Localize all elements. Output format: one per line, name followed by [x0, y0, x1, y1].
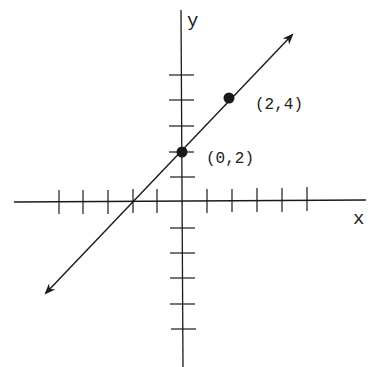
y-axis	[181, 10, 183, 367]
x-axis	[14, 200, 366, 202]
point-label-0-2: (0,2)	[206, 150, 254, 168]
coordinate-plane: y x (2,4) (0,2)	[0, 0, 371, 367]
line-y-equals-x-plus-2	[46, 35, 292, 293]
point-0-2	[177, 147, 188, 158]
y-axis-label: y	[187, 10, 198, 32]
point-label-2-4: (2,4)	[255, 96, 303, 114]
x-axis-label: x	[353, 208, 364, 230]
point-2-4	[224, 93, 235, 104]
